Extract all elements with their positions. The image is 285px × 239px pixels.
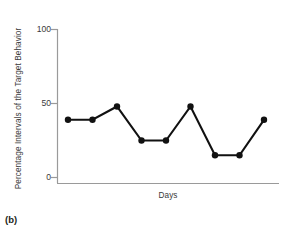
data-point	[89, 117, 95, 123]
data-point	[187, 103, 193, 109]
data-point	[114, 103, 120, 109]
y-axis-label: Percentage Intervals of the Target Behav…	[14, 23, 23, 195]
data-line-target-behavior	[68, 106, 264, 155]
y-tick-label-0: 0	[25, 172, 51, 182]
y-tick-label-100: 100	[25, 24, 51, 34]
data-point	[163, 137, 169, 143]
line-chart	[0, 0, 285, 239]
data-point	[65, 117, 71, 123]
x-axis-label: Days	[57, 191, 279, 200]
data-point	[138, 137, 144, 143]
data-point	[261, 117, 267, 123]
y-tick-label-50: 50	[25, 98, 51, 108]
data-point	[212, 152, 218, 158]
data-point	[236, 152, 242, 158]
data-markers	[65, 103, 267, 158]
figure-panel-b: Percentage Intervals of the Target Behav…	[0, 0, 285, 239]
figure-caption: (b)	[5, 214, 17, 225]
